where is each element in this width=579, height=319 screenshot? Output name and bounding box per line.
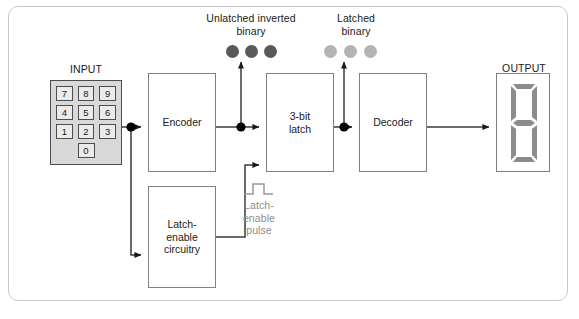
keypad-row: 4 5 6 [56,105,116,120]
keypad-key-4[interactable]: 4 [56,105,73,120]
junction-dot-keypad [126,122,135,131]
output-seven-segment-display [496,73,550,172]
latch-enable-pulse-waveform-icon [244,184,273,194]
input-label: INPUT [50,63,122,76]
junction-dot-encoder-output [236,122,245,131]
block-3bit-latch[interactable]: 3-bit latch [266,73,334,172]
latch-enable-pulse-label: Latch- enable pulse [238,199,280,237]
segment-c [532,125,537,160]
block-diagram-canvas: INPUT 7 8 9 4 5 6 1 2 3 0 Encoder 3-bit … [0,0,579,319]
keypad-key-9[interactable]: 9 [99,86,116,101]
block-encoder[interactable]: Encoder [148,73,216,172]
unlatched-binary-indicator-dot [264,45,277,58]
wire-junction-to-latch-enable-circuitry [131,127,141,255]
unlatched-binary-indicator-dot [245,45,258,58]
keypad-row: 1 2 3 [56,124,116,139]
input-keypad[interactable]: 7 8 9 4 5 6 1 2 3 0 [50,80,122,165]
latched-binary-label: Latched binary [311,12,401,37]
block-latch-enable-circuitry[interactable]: Latch- enable circuitry [148,186,216,288]
keypad-key-1[interactable]: 1 [56,124,73,139]
keypad-row: 0 [56,143,116,158]
segment-f [511,86,516,121]
keypad-key-5[interactable]: 5 [78,105,95,120]
seven-segment-glyph [506,82,542,164]
keypad-key-7[interactable]: 7 [56,86,73,101]
latched-binary-indicator-dot [364,45,377,58]
latched-binary-indicator-dot [344,45,357,58]
unlatched-inverted-binary-label: Unlatched inverted binary [189,12,313,37]
segment-b [532,86,537,121]
segment-e [511,125,516,160]
block-decoder[interactable]: Decoder [359,73,427,172]
keypad-key-8[interactable]: 8 [78,86,95,101]
keypad-row: 7 8 9 [56,86,116,101]
keypad-key-3[interactable]: 3 [99,124,116,139]
junction-dot-latch-output [339,122,348,131]
keypad-key-0[interactable]: 0 [78,143,95,158]
latched-binary-indicator-dot [324,45,337,58]
keypad-key-6[interactable]: 6 [99,105,116,120]
segment-a [513,84,535,89]
segment-d [513,157,535,162]
keypad-key-2[interactable]: 2 [78,124,95,139]
unlatched-binary-indicator-dot [226,45,239,58]
segment-g [513,120,535,126]
